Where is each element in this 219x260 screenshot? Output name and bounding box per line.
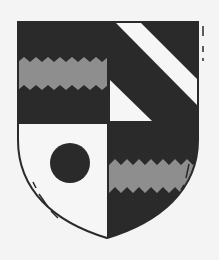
- roundel: [50, 143, 90, 183]
- coat-of-arms-shield: [0, 0, 219, 260]
- wavy-fess-top-left: [18, 57, 108, 90]
